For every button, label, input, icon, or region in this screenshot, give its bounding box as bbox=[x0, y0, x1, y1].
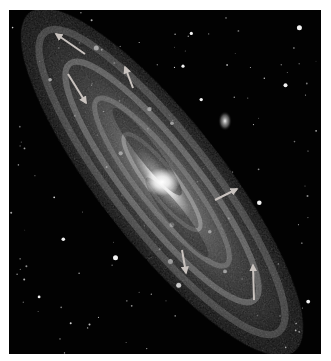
star bbox=[190, 32, 193, 35]
star bbox=[78, 273, 79, 274]
star bbox=[287, 72, 288, 73]
star bbox=[174, 34, 175, 35]
star bbox=[200, 98, 203, 101]
star bbox=[53, 196, 55, 198]
star bbox=[174, 47, 175, 48]
star bbox=[174, 315, 176, 317]
star bbox=[38, 296, 41, 299]
star bbox=[91, 19, 93, 21]
star bbox=[126, 300, 128, 302]
star bbox=[257, 200, 262, 205]
star bbox=[60, 306, 62, 308]
star bbox=[174, 67, 175, 68]
star bbox=[59, 338, 60, 339]
star bbox=[12, 27, 14, 29]
star bbox=[20, 258, 21, 259]
star bbox=[89, 323, 91, 325]
star bbox=[264, 78, 265, 79]
star bbox=[247, 97, 248, 98]
star bbox=[181, 65, 184, 68]
star bbox=[306, 83, 308, 85]
star bbox=[235, 53, 236, 54]
star bbox=[10, 212, 12, 214]
star bbox=[21, 142, 22, 143]
galaxy-scene bbox=[9, 10, 321, 354]
star bbox=[38, 311, 39, 312]
star bbox=[281, 64, 283, 66]
star bbox=[70, 322, 72, 324]
star bbox=[293, 47, 295, 49]
star bbox=[25, 265, 27, 267]
star bbox=[62, 238, 66, 242]
star bbox=[23, 279, 25, 281]
galaxy-photo bbox=[9, 10, 321, 354]
star bbox=[188, 36, 190, 38]
star bbox=[18, 164, 20, 166]
star bbox=[126, 342, 127, 343]
star bbox=[307, 150, 308, 151]
star bbox=[284, 83, 288, 87]
star bbox=[238, 30, 240, 32]
star bbox=[120, 46, 121, 47]
star bbox=[298, 63, 300, 65]
star bbox=[253, 124, 254, 125]
star bbox=[23, 302, 24, 303]
star bbox=[19, 126, 21, 128]
star bbox=[16, 274, 18, 276]
galaxy-core bbox=[144, 168, 180, 196]
star bbox=[80, 12, 81, 13]
star bbox=[315, 130, 317, 132]
star bbox=[87, 327, 88, 328]
star bbox=[98, 317, 99, 318]
star bbox=[151, 294, 152, 295]
star bbox=[250, 67, 251, 68]
star bbox=[208, 33, 209, 34]
star bbox=[234, 96, 236, 98]
satellite-galaxy bbox=[218, 111, 232, 131]
star bbox=[305, 185, 306, 186]
star bbox=[131, 305, 133, 307]
star bbox=[34, 175, 35, 176]
star bbox=[302, 308, 303, 309]
star bbox=[165, 300, 166, 301]
star bbox=[297, 25, 302, 30]
star bbox=[112, 265, 113, 266]
star bbox=[146, 348, 147, 349]
star bbox=[307, 217, 308, 218]
arrow-lower-right-up-icon bbox=[253, 265, 254, 300]
star bbox=[258, 168, 260, 170]
star bbox=[82, 212, 83, 213]
star bbox=[113, 255, 118, 260]
star bbox=[20, 145, 21, 146]
star bbox=[24, 230, 25, 231]
star bbox=[24, 148, 26, 150]
star bbox=[225, 17, 226, 18]
star bbox=[294, 141, 296, 143]
star bbox=[301, 242, 303, 244]
star bbox=[258, 118, 259, 119]
star bbox=[157, 64, 158, 65]
star bbox=[298, 224, 299, 225]
star bbox=[139, 42, 140, 43]
star bbox=[64, 352, 65, 353]
star bbox=[139, 292, 140, 293]
star bbox=[113, 242, 114, 243]
star bbox=[316, 61, 317, 62]
star bbox=[232, 171, 233, 172]
star bbox=[226, 64, 228, 66]
star bbox=[305, 95, 306, 96]
star bbox=[307, 195, 309, 197]
star bbox=[20, 269, 21, 270]
star bbox=[306, 300, 310, 304]
star bbox=[185, 51, 186, 52]
